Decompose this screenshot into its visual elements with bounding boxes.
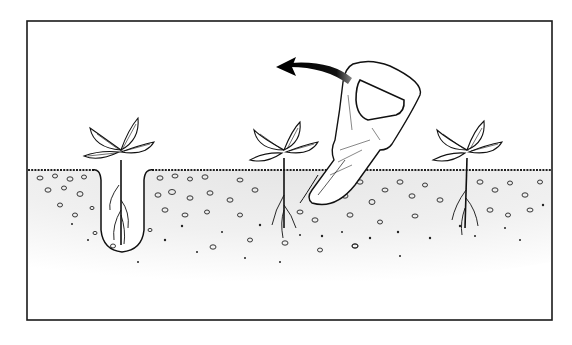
soil <box>28 170 551 283</box>
transplanting-illustration <box>0 0 572 345</box>
